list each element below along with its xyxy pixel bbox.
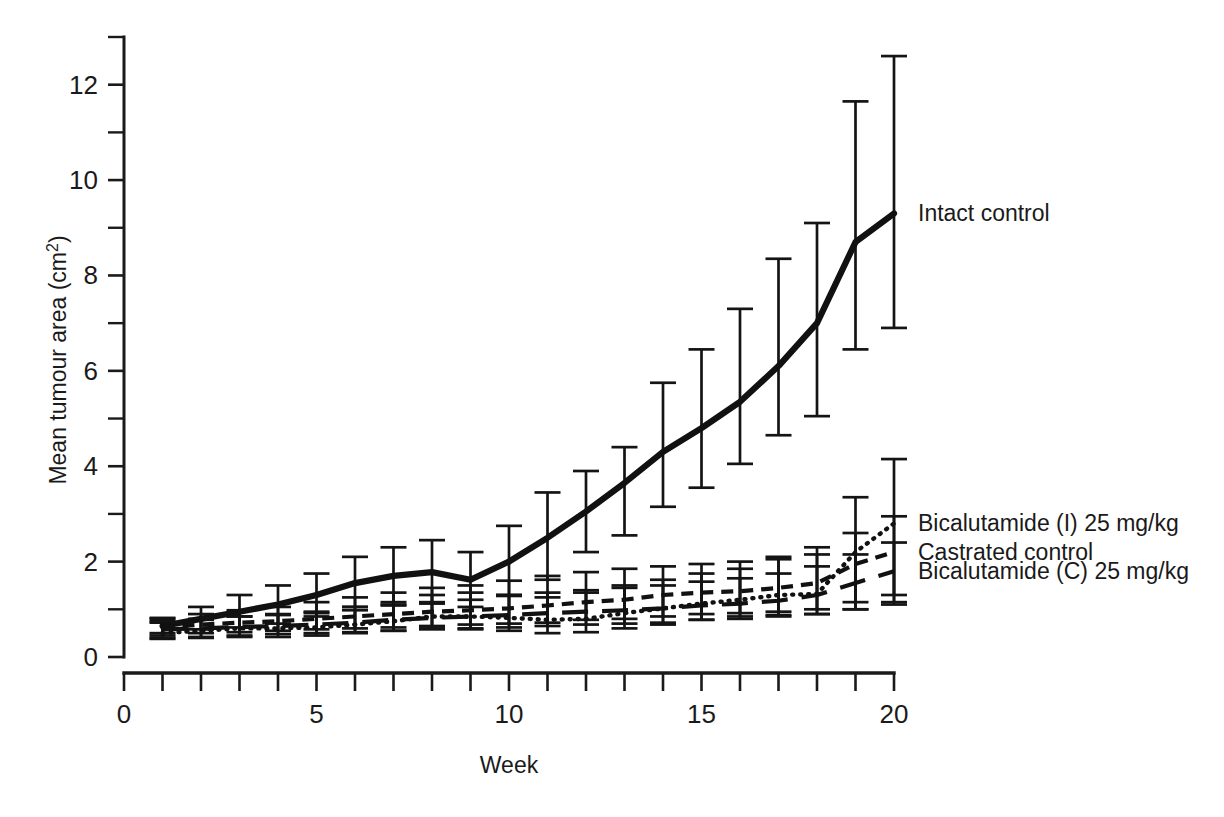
x-axis-title: Week: [480, 752, 539, 778]
y-axis-tick-label: 6: [84, 356, 98, 386]
y-axis-title-close: ): [45, 235, 71, 243]
x-axis-tick-label: 5: [309, 699, 323, 729]
figure-container: 024681012 05101520 Intact controlBicalut…: [0, 0, 1224, 817]
x-axis-tick-label: 0: [117, 699, 131, 729]
x-axis-tick-label: 15: [687, 699, 716, 729]
y-axis-title-superscript: 2: [44, 243, 61, 252]
x-axis-tick-label: 20: [880, 699, 909, 729]
series-label-3: Bicalutamide (C) 25 mg/kg: [918, 558, 1189, 584]
y-axis-tick-label: 4: [84, 451, 98, 481]
y-axis-tick-label: 2: [84, 547, 98, 577]
y-axis-title-base: Mean tumour area (cm: [45, 252, 71, 485]
y-axis-title: Mean tumour area (cm2): [44, 235, 72, 484]
y-axis-tick-label: 0: [84, 642, 98, 672]
y-axis-tick-label: 10: [69, 165, 98, 195]
y-axis-tick-label: 12: [69, 70, 98, 100]
tumour-growth-line-chart: 024681012 05101520 Intact controlBicalut…: [0, 0, 1224, 817]
series-label-1: Bicalutamide (I) 25 mg/kg: [918, 510, 1179, 536]
chart-background: [0, 0, 1224, 817]
x-axis-tick-label: 10: [495, 699, 524, 729]
y-axis-tick-label: 8: [84, 260, 98, 290]
series-label-0: Intact control: [918, 200, 1050, 226]
